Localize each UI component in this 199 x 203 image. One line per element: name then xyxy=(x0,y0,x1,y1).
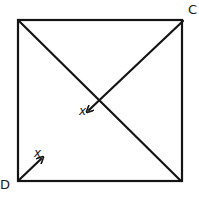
partial-diagonal-vector-from-c xyxy=(89,21,183,110)
short-vector-from-d xyxy=(19,159,41,180)
vector-label-x-center: x xyxy=(78,104,87,118)
vertex-label-d: D xyxy=(0,177,10,192)
vertex-label-c: C xyxy=(188,2,197,17)
vector-label-x-corner: x xyxy=(33,146,42,160)
diagram-canvas: C D x x xyxy=(0,0,199,203)
